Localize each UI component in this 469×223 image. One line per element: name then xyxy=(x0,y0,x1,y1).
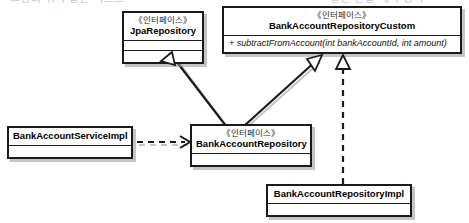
class-header-bank-account-repository-custom: 《인터페이스》 BankAccountRepositoryCustom xyxy=(224,8,460,36)
class-box-bank-account-repository-custom[interactable]: 《인터페이스》 BankAccountRepositoryCustom + su… xyxy=(222,6,462,54)
line-repository-to-custom-repository xyxy=(244,60,317,126)
class-header-bank-account-repository-impl: BankAccountRepositoryImpl xyxy=(268,186,410,204)
class-stereotype-bank-account-repository: 《인터페이스》 xyxy=(196,128,306,138)
class-name-bank-account-repository: BankAccountRepository xyxy=(196,138,306,150)
class-box-jpa-repository[interactable]: 《인터페이스》 JpaRepository xyxy=(122,11,204,64)
class-name-bank-account-repository-custom: BankAccountRepositoryCustom xyxy=(228,20,456,32)
class-name-bank-account-repository-impl: BankAccountRepositoryImpl xyxy=(272,188,406,200)
class-operations-bank-account-repository xyxy=(192,154,310,165)
class-box-bank-account-repository[interactable]: 《인터페이스》 BankAccountRepository xyxy=(190,124,312,167)
class-operations-jpa-repository xyxy=(124,51,202,62)
class-operations-bank-account-repository-custom: + subtractFromAccount(int bankAccountId,… xyxy=(224,36,460,52)
class-header-jpa-repository: 《인터페이스》 JpaRepository xyxy=(124,13,202,41)
class-stereotype-jpa-repository: 《인터페이스》 xyxy=(128,15,198,25)
class-header-bank-account-repository: 《인터페이스》 BankAccountRepository xyxy=(192,126,310,154)
uml-class-diagram: 그림의 위쪽 잘린 텍스트 잘린 한글 제목 영역 《인터페이스》 JpaRep… xyxy=(0,0,469,223)
class-operations-bank-account-service-impl xyxy=(9,146,131,157)
class-name-jpa-repository: JpaRepository xyxy=(128,25,198,37)
operation-subtract-from-account: + subtractFromAccount(int bankAccountId,… xyxy=(229,37,455,50)
class-stereotype-bank-account-repository-custom: 《인터페이스》 xyxy=(228,10,456,20)
class-box-bank-account-repository-impl[interactable]: BankAccountRepositoryImpl xyxy=(266,184,412,217)
class-box-bank-account-service-impl[interactable]: BankAccountServiceImpl xyxy=(7,126,133,159)
class-name-bank-account-service-impl: BankAccountServiceImpl xyxy=(13,130,127,142)
line-repository-to-jpa-repository xyxy=(173,57,226,126)
class-operations-bank-account-repository-impl xyxy=(268,204,410,215)
class-header-bank-account-service-impl: BankAccountServiceImpl xyxy=(9,128,131,146)
connector-shadows xyxy=(177,60,320,128)
class-attributes-jpa-repository xyxy=(124,41,202,51)
